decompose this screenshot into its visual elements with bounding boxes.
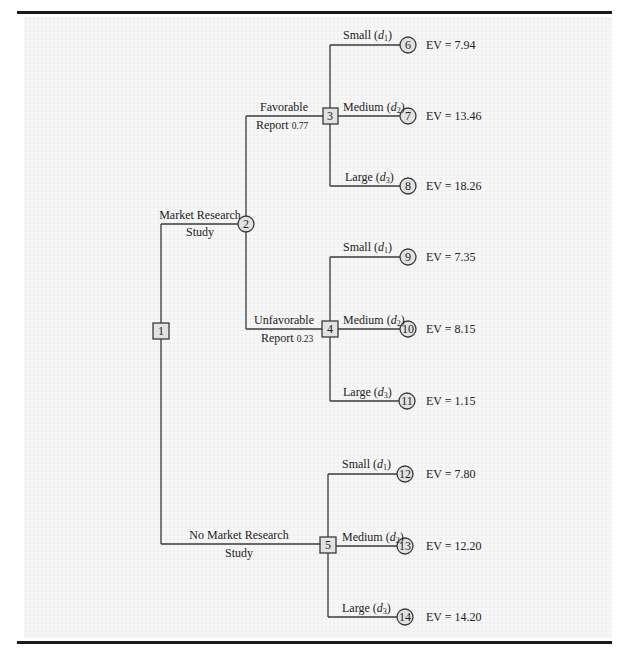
node-1-label: 1: [158, 325, 164, 337]
ev-node-12: EV = 7.80: [426, 467, 476, 481]
ev-node-6: EV = 7.94: [426, 38, 476, 52]
alt-small-n3: Small (d1): [343, 28, 392, 46]
ev-node-11: EV = 1.15: [426, 394, 476, 408]
node-12-label: 12: [399, 468, 411, 480]
alt-medium-n5: Medium (d2): [342, 530, 404, 548]
node-7-label: 7: [405, 110, 411, 122]
ev-node-10: EV = 8.15: [426, 322, 476, 336]
node-3-label: 3: [327, 110, 333, 122]
favorable-probability: 0.77: [292, 121, 309, 131]
unfavorable-probability: 0.23: [297, 334, 314, 344]
node-6-label: 6: [405, 39, 411, 51]
favorable-label: Favorable: [260, 100, 308, 114]
market-research-label-1: Market Research: [159, 208, 241, 222]
alt-medium-n3: Medium (d2): [343, 100, 405, 118]
node-9-label: 9: [405, 251, 411, 263]
alt-large-n4: Large (d3): [343, 385, 392, 403]
node-4-label: 4: [327, 323, 333, 335]
node-14-label: 14: [399, 611, 411, 623]
unfavorable-label: Unfavorable: [254, 313, 314, 327]
node-2-label: 2: [243, 218, 249, 230]
node-8-label: 8: [405, 180, 411, 192]
no-market-research-label-2: Study: [225, 546, 253, 560]
alt-medium-n4: Medium (d2): [343, 313, 405, 331]
unfavorable-report-label: Report 0.23: [261, 331, 313, 346]
favorable-report-label: Report 0.77: [256, 118, 308, 133]
alt-large-n5: Large (d3): [342, 601, 391, 619]
ev-node-14: EV = 14.20: [426, 610, 482, 624]
market-research-label-2: Study: [186, 225, 214, 239]
ev-node-9: EV = 7.35: [426, 250, 476, 264]
node-11-label: 11: [401, 395, 413, 407]
ev-node-8: EV = 18.26: [426, 179, 482, 193]
ev-node-13: EV = 12.20: [426, 539, 482, 553]
alt-small-n4: Small (d1): [343, 240, 392, 258]
alt-small-n5: Small (d1): [342, 457, 391, 475]
node-5-label: 5: [325, 539, 331, 551]
ev-node-7: EV = 13.46: [426, 109, 482, 123]
no-market-research-label-1: No Market Research: [189, 528, 288, 542]
alt-large-n3: Large (d3): [345, 170, 394, 188]
tree-lines: [0, 0, 628, 654]
